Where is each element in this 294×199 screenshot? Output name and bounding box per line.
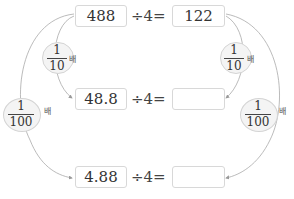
result-box-1: 122 (172, 5, 225, 27)
answer-input-3[interactable] (172, 166, 225, 188)
dividend-box-3: 4.88 (75, 166, 127, 188)
numerator: 1 (254, 100, 262, 113)
left-hundredth-fraction: 1 100 (8, 100, 34, 129)
dividend-value-2: 48.8 (84, 90, 117, 108)
operator-3: ÷4= (131, 166, 166, 188)
numerator: 1 (17, 100, 25, 113)
left-tenth-suffix: 배 (69, 53, 76, 64)
right-tenth-suffix: 배 (247, 53, 254, 64)
dividend-box-2: 48.8 (75, 88, 127, 110)
result-value-1: 122 (184, 7, 213, 25)
denominator: 100 (247, 116, 270, 129)
right-hundredth-suffix: 배 (279, 105, 286, 116)
right-tenth-fraction: 1 10 (224, 44, 244, 73)
denominator: 10 (49, 60, 64, 73)
dividend-box-1: 488 (75, 5, 127, 27)
operator-2: ÷4= (131, 88, 166, 110)
numerator: 1 (53, 44, 61, 57)
dividend-value-1: 488 (87, 7, 116, 25)
left-tenth-fraction: 1 10 (47, 44, 67, 73)
operator-1: ÷4= (131, 5, 166, 27)
dividend-value-3: 4.88 (84, 168, 117, 186)
left-hundredth-suffix: 배 (44, 105, 51, 116)
denominator: 10 (226, 60, 241, 73)
denominator: 100 (10, 116, 33, 129)
answer-input-2[interactable] (172, 88, 225, 110)
right-hundredth-fraction: 1 100 (245, 100, 271, 129)
numerator: 1 (230, 44, 238, 57)
